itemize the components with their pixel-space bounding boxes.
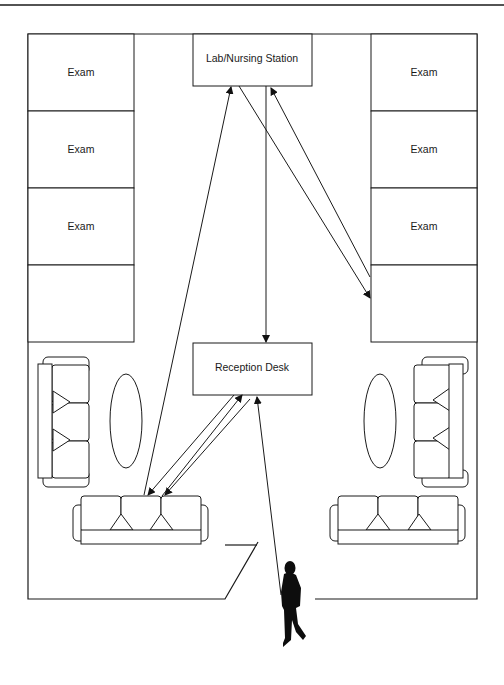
exam-label: Exam xyxy=(68,143,95,155)
exam-room-left-4 xyxy=(28,265,134,342)
sofa-right-horizontal xyxy=(330,496,465,544)
left-exam-column: Exam Exam Exam xyxy=(28,34,134,342)
arrow-sofa-to-reception xyxy=(162,395,242,496)
lab-label: Lab/Nursing Station xyxy=(206,52,298,64)
lab-nursing-station: Lab/Nursing Station xyxy=(193,34,312,86)
arrow-sofa-to-lab xyxy=(144,87,231,495)
arrow-reception-to-sofa xyxy=(148,395,234,495)
sofa-right-vertical xyxy=(414,357,468,487)
table-left xyxy=(110,374,142,468)
exam-label: Exam xyxy=(411,66,438,78)
sofa-left-horizontal xyxy=(73,496,208,544)
arrow-entrance-to-reception xyxy=(257,397,281,595)
exam-label: Exam xyxy=(68,66,95,78)
table-right xyxy=(364,374,396,468)
arrow-exam-to-lab xyxy=(271,88,370,277)
exam-room-right-4 xyxy=(371,265,477,342)
reception-label: Reception Desk xyxy=(215,361,290,373)
person-walking-icon xyxy=(281,561,306,647)
sofa-left-vertical xyxy=(38,357,89,487)
floor-plan-diagram: Exam Exam Exam Exam Exam Exam Lab/Nursin… xyxy=(0,0,504,685)
arrow-reception-to-sofa-2 xyxy=(165,399,250,495)
exam-label: Exam xyxy=(411,220,438,232)
reception-desk: Reception Desk xyxy=(193,343,312,395)
arrow-lab-to-exam xyxy=(239,86,370,298)
exam-label: Exam xyxy=(68,220,95,232)
right-exam-column: Exam Exam Exam xyxy=(371,34,477,342)
exam-label: Exam xyxy=(411,143,438,155)
